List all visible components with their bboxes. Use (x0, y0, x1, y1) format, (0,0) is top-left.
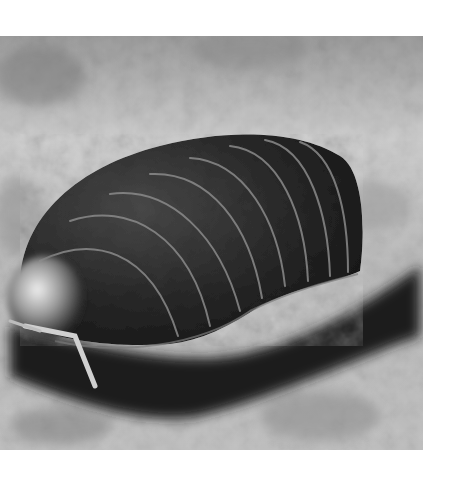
pill-bug-photo-svg (0, 36, 423, 450)
photo: Black-and-white close-up photograph of a… (0, 36, 423, 450)
